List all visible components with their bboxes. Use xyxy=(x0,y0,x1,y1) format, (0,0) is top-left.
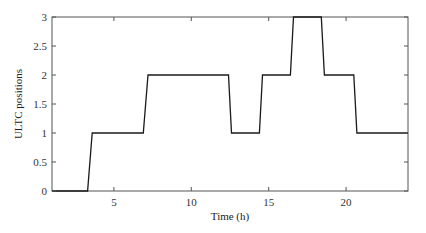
series-line xyxy=(52,17,408,191)
plot-area xyxy=(52,17,408,191)
y-tick-label: 0 xyxy=(42,185,48,197)
x-tick-label: 10 xyxy=(186,196,198,208)
y-tick-label: 1.5 xyxy=(33,98,47,110)
y-tick-label: 2.5 xyxy=(33,40,47,52)
y-tick-label: 2 xyxy=(42,69,48,81)
x-tick-label: 5 xyxy=(111,196,117,208)
y-tick-label: 0.5 xyxy=(33,156,47,168)
y-axis-label: ULTC positions xyxy=(12,69,24,139)
x-tick-label: 15 xyxy=(263,196,275,208)
y-tick-label: 1 xyxy=(42,127,48,139)
x-axis-label: Time (h) xyxy=(211,210,250,223)
x-tick-label: 20 xyxy=(341,196,353,208)
y-tick-label: 3 xyxy=(42,11,48,23)
x-axis-ticks: 5101520 xyxy=(111,17,352,208)
ultc-position-chart: 00.511.522.53 5101520 Time (h) ULTC posi… xyxy=(0,0,426,233)
